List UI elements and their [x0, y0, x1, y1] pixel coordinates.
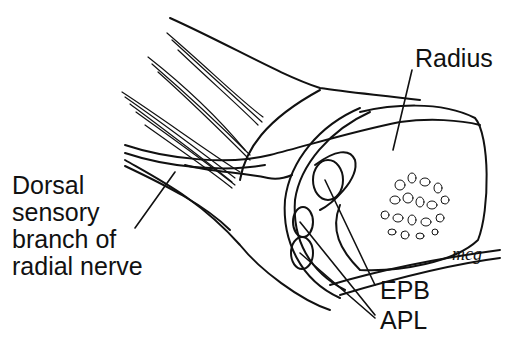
label-epb: EPB: [380, 276, 430, 304]
label-nerve-line3: branch of: [12, 225, 116, 253]
skin-contour: [170, 18, 420, 100]
leader-epb: [325, 180, 375, 285]
epb-tendon: [313, 160, 343, 200]
leader-radius: [393, 70, 412, 150]
label-nerve-line2: sensory: [12, 198, 100, 226]
cancellous-bone-texture: [381, 173, 449, 239]
extensor-retinaculum: [285, 108, 360, 298]
tendon-fibers: [122, 33, 263, 188]
anatomical-diagram: Radius Dorsal sensory branch of radial n…: [0, 0, 505, 340]
artist-signature: mcg: [452, 244, 482, 265]
label-radius: Radius: [415, 44, 493, 72]
label-nerve-line4: radial nerve: [12, 252, 143, 280]
label-apl: APL: [380, 306, 427, 334]
label-nerve-line1: Dorsal: [12, 171, 84, 199]
